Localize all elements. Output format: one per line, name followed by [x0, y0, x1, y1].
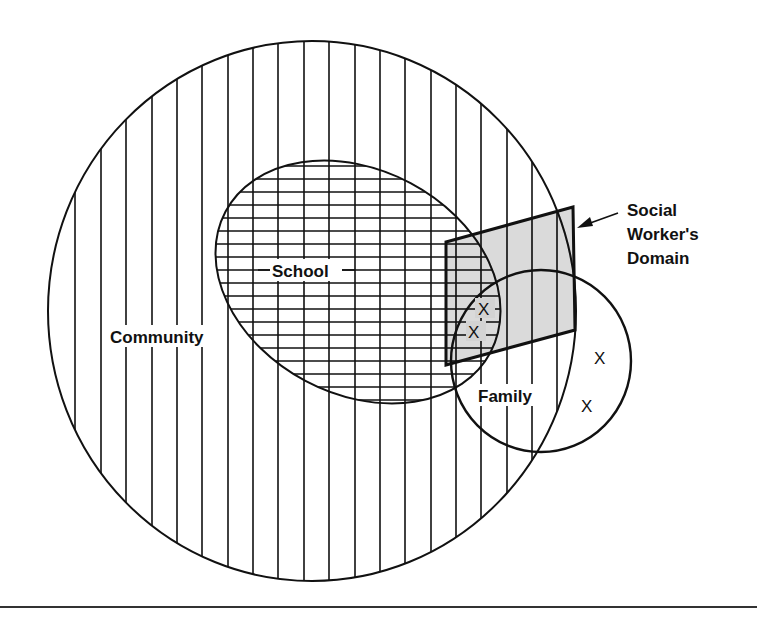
x-marker: X: [581, 397, 592, 416]
venn-diagram: Community School Family Social Worker's …: [0, 0, 757, 634]
social-worker-domain-region: [48, 41, 576, 581]
social-worker-domain-label-line3: Domain: [627, 249, 689, 268]
domain-pointer-arrow: [577, 213, 618, 228]
social-worker-domain-label-line1: Social: [627, 201, 677, 220]
family-label: Family: [478, 387, 532, 406]
social-worker-domain-label-line2: Worker's: [627, 225, 699, 244]
community-label: Community: [110, 328, 204, 347]
x-marker: X: [478, 300, 489, 319]
x-marker: X: [594, 349, 605, 368]
x-marker: X: [468, 323, 479, 342]
school-label: School: [272, 262, 329, 281]
